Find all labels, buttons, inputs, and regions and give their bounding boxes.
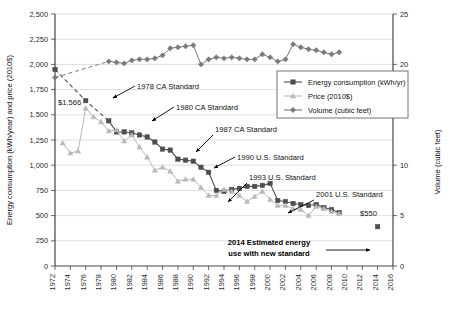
y2-axis-tick-label: 10: [400, 161, 408, 170]
y-axis-tick-label: 500: [36, 211, 48, 220]
y-axis-tick-label: 2,000: [30, 60, 49, 69]
y-axis-tick-label: 1,500: [30, 110, 49, 119]
y-axis-title: Energy consumption (kWh/year) and price …: [5, 54, 14, 225]
x-axis-tick-label: 1998: [248, 274, 257, 290]
chart-svg: 02505007501,0001,2501,5001,7502,0002,250…: [0, 0, 449, 330]
x-axis-tick-label: 1994: [217, 274, 226, 290]
data-point-marker: [253, 184, 257, 188]
y-axis-tick-label: 1,250: [30, 136, 49, 145]
data-point-marker: [291, 201, 295, 205]
data-point-marker: [183, 158, 187, 162]
x-axis-tick-label: 1986: [156, 274, 165, 290]
y2-axis-tick-label: 20: [400, 60, 408, 69]
annotation-label: 1978 CA Standard: [137, 82, 199, 91]
y-axis-tick-label: 1,000: [30, 161, 49, 170]
data-point-marker: [176, 157, 180, 161]
data-point-marker: [145, 135, 149, 139]
data-point-marker: [214, 188, 218, 192]
x-axis-tick-label: 2010: [340, 274, 349, 290]
annotation-label: 2014 Estimated energy: [228, 238, 311, 247]
legend-label: Energy consumption (kWh/yr): [308, 78, 405, 87]
data-point-marker: [237, 186, 241, 190]
x-axis-tick-label: 2012: [355, 274, 364, 290]
data-point-marker: [276, 198, 280, 202]
x-axis-tick-label: 2002: [278, 274, 287, 290]
annotation-label: $550: [360, 209, 377, 218]
x-axis-tick-label: 2016: [386, 274, 395, 290]
x-axis-tick-label: 2000: [263, 274, 272, 290]
annotation-label: 1993 U.S. Standard: [249, 173, 316, 182]
y-axis-tick-label: 750: [36, 186, 48, 195]
y-axis-tick-label: 2,250: [30, 35, 49, 44]
y-axis-tick-label: 0: [44, 262, 48, 271]
x-axis-tick-label: 1996: [232, 274, 241, 290]
x-axis-tick-label: 2006: [309, 274, 318, 290]
data-point-marker: [191, 159, 195, 163]
x-axis-tick-label: 1984: [140, 274, 149, 290]
y-axis-tick-label: 1,750: [30, 85, 49, 94]
y2-axis-tick-label: 5: [400, 211, 404, 220]
annotation-label: 1980 CA Standard: [176, 103, 238, 112]
x-axis-tick-label: 1976: [79, 274, 88, 290]
y2-axis-title: Volume (cubic feet): [433, 129, 442, 194]
data-point-marker: [168, 148, 172, 152]
x-axis-tick-label: 2008: [325, 274, 334, 290]
annotation-label: 1987 CA Standard: [215, 125, 277, 134]
data-point-marker: [84, 98, 88, 102]
x-axis-tick-label: 1974: [63, 274, 72, 290]
x-axis-tick-label: 1972: [48, 274, 57, 290]
data-point-marker: [199, 165, 203, 169]
annotation-label: $1,566: [58, 98, 81, 107]
x-axis-tick-label: 1978: [94, 274, 103, 290]
data-point-marker: [375, 224, 379, 228]
data-point-marker: [260, 183, 264, 187]
x-axis-tick-label: 1988: [171, 274, 180, 290]
x-axis-tick-label: 1992: [202, 274, 211, 290]
y-axis-tick-label: 250: [36, 236, 48, 245]
x-axis-tick-label: 1990: [186, 274, 195, 290]
x-axis-tick-label: 1980: [109, 274, 118, 290]
data-point-marker: [160, 147, 164, 151]
data-point-marker: [53, 67, 57, 71]
annotation-label: 1990 U.S. Standard: [237, 153, 304, 162]
legend-label: Volume (cubic feet): [308, 106, 371, 115]
x-axis-tick-label: 2014: [371, 274, 380, 290]
data-point-marker: [206, 170, 210, 174]
data-point-marker: [291, 80, 295, 84]
y2-axis-tick-label: 25: [400, 10, 408, 19]
x-axis-tick-label: 1982: [125, 274, 134, 290]
legend-label: Price (2010$): [308, 92, 352, 101]
data-point-marker: [137, 133, 141, 137]
y-axis-tick-label: 2,500: [30, 10, 49, 19]
x-axis-tick-label: 2004: [294, 274, 303, 290]
y2-axis-tick-label: 0: [400, 262, 404, 271]
data-point-marker: [153, 140, 157, 144]
annotation-label: 2001 U.S. Standard: [316, 190, 383, 199]
data-point-marker: [122, 130, 126, 134]
data-point-marker: [107, 119, 111, 123]
refrigerator-trends-chart: 02505007501,0001,2501,5001,7502,0002,250…: [0, 0, 449, 330]
annotation-label: use with new standard: [228, 249, 310, 258]
